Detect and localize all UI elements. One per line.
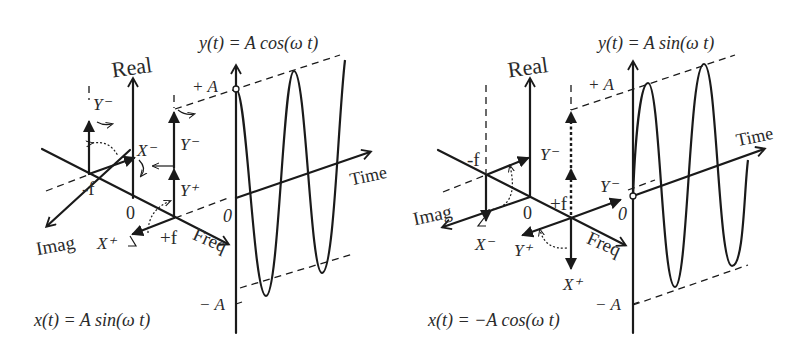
- spin-arrow: [128, 236, 136, 246]
- time-label: Time: [348, 162, 389, 189]
- cosine-wave: [236, 60, 345, 296]
- y-minus-label: Y⁻: [180, 135, 200, 154]
- phasor-neg-x: [89, 158, 134, 174]
- neg-f-label: -f: [82, 178, 95, 199]
- y-plus-label: Y⁺: [514, 241, 534, 260]
- y-equation: y(t) = A cos(ω t): [197, 33, 318, 54]
- phasor-pos-x-right: [571, 200, 620, 218]
- origin-label: 0: [126, 203, 135, 223]
- guide-dash: [443, 175, 486, 192]
- y-minus-label: Y⁻: [540, 145, 560, 164]
- x-minus-label: X⁻: [136, 141, 158, 160]
- spin-arrow: [178, 110, 194, 115]
- minus-a-label: − A: [595, 295, 621, 314]
- spin-arrow: [97, 122, 112, 125]
- real-label: Real: [506, 52, 549, 82]
- diagram-canvas: Real Imag Freq Time -f +f 0 + A − A 0 Y⁻…: [0, 0, 803, 350]
- rotation-arc: [540, 230, 567, 248]
- zero-label: 0: [223, 206, 232, 226]
- freq-label: Freq: [584, 227, 625, 261]
- spin-arrow: [478, 218, 486, 226]
- zero-label: 0: [618, 204, 627, 224]
- freq-label: Freq: [190, 223, 231, 257]
- plus-a-label: + A: [192, 77, 218, 96]
- pos-f-label: +f: [160, 227, 178, 248]
- y-minus-label: Y⁻: [600, 177, 620, 196]
- neg-f-label: -f: [467, 149, 480, 170]
- spin-arrow: [139, 160, 144, 176]
- x-equation: x(t) = −A cos(ω t): [427, 310, 560, 331]
- time-axis: [633, 149, 764, 196]
- time-label: Time: [734, 123, 775, 150]
- minus-a-dash: [633, 265, 748, 305]
- x-minus-label: X⁻: [474, 235, 496, 254]
- real-label: Real: [110, 52, 153, 82]
- x-plus-label: X⁺: [562, 275, 584, 294]
- start-point-marker: [630, 193, 636, 199]
- imag-label: Imag: [34, 232, 77, 260]
- minus-a-label: − A: [199, 295, 225, 314]
- origin-label: 0: [523, 203, 532, 223]
- y-minus-label: Y⁻: [93, 95, 113, 114]
- y-plus-label: Y⁺: [180, 181, 200, 200]
- start-point-marker: [233, 86, 239, 92]
- plus-a-label: + A: [588, 75, 614, 94]
- pos-f-label: +f: [550, 193, 568, 214]
- left-panel: Real Imag Freq Time -f +f 0 + A − A 0 Y⁻…: [33, 33, 389, 333]
- rotation-arc: [92, 143, 118, 156]
- guide-dash: [175, 198, 228, 218]
- y-equation: y(t) = A sin(ω t): [596, 33, 714, 54]
- x-equation: x(t) = A sin(ω t): [33, 310, 150, 331]
- x-plus-label: X⁺: [96, 234, 118, 253]
- right-panel: Real Imag Freq Time -f +f 0 + A − A 0 Y⁻…: [411, 33, 775, 333]
- phasor-neg-y: [486, 158, 528, 175]
